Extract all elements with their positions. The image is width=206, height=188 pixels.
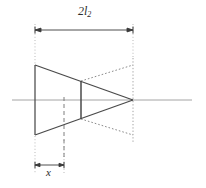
wedge-upper-edge [35,65,133,100]
diagram-canvas: 2l2 x [0,0,206,188]
dimension-2l2-arrow-left [35,28,41,32]
reference-edge-upper [81,65,133,81]
diagram-svg [0,0,206,188]
dimension-2l2 [35,27,133,34]
offset-label-x: x [46,166,51,178]
reference-edge-lower [81,119,133,135]
extension-lines [35,24,133,174]
dimension-x-arrow-left [35,163,40,166]
length-label-prefix: 2l [78,4,87,18]
length-label-2l2: 2l2 [78,4,91,19]
dimension-x-arrow-right [59,163,64,166]
dimension-2l2-arrow-right [127,28,133,32]
wedge-lower-edge [35,100,133,135]
length-label-subscript: 2 [87,10,91,19]
